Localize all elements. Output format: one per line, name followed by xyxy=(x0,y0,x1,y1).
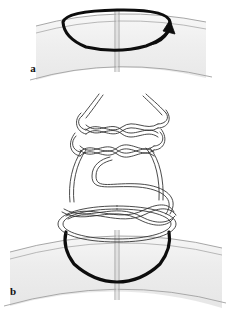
suture-illustration: a xyxy=(0,0,229,312)
panel-label-b: b xyxy=(10,285,16,297)
figure-root: a xyxy=(0,0,229,312)
panel-label-a: a xyxy=(30,62,36,74)
